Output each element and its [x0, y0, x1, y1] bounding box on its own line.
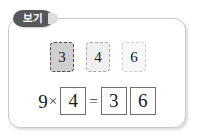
worksheet-panel: 3 4 6 9 × 4 = 3 6	[8, 18, 186, 128]
number-tile-3-value: 6	[130, 49, 138, 66]
example-tab-label: 보기	[23, 13, 42, 24]
number-tile-2[interactable]: 4	[86, 42, 110, 72]
result-ones-answer-box[interactable]: 6	[130, 87, 156, 115]
number-tiles-row: 3 4 6	[9, 39, 187, 75]
result-tens-answer-box[interactable]: 3	[101, 87, 127, 115]
number-tile-1-value: 3	[58, 49, 66, 66]
number-tile-2-value: 4	[94, 49, 102, 66]
number-tile-3[interactable]: 6	[122, 42, 146, 72]
number-tile-1[interactable]: 3	[50, 42, 74, 72]
equals-sign-icon: =	[89, 94, 97, 109]
example-tab-badge: 보기	[13, 10, 53, 27]
equation-row: 9 × 4 = 3 6	[9, 81, 187, 121]
multiplier-answer-box[interactable]: 4	[60, 87, 86, 115]
multiplication-sign-icon: ×	[49, 94, 57, 109]
equation-left-operand: 9	[38, 92, 48, 111]
